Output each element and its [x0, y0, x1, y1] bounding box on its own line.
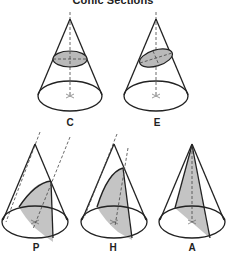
cone-axial: A [159, 144, 225, 253]
cone-label-p: P [33, 242, 40, 253]
parabola-shading [19, 181, 53, 242]
cone-parabola: P [2, 132, 70, 253]
cone-label-e: E [154, 117, 161, 128]
cone-hyperbola: H [81, 134, 147, 253]
triangle-shading [175, 145, 210, 238]
cone-circle: C [38, 12, 102, 128]
cone-label-h: H [109, 242, 116, 253]
cone-label-a: A [188, 242, 195, 253]
cone-ellipse: E [124, 12, 188, 128]
conic-sections-diagram: C E P [0, 0, 226, 258]
hyperbola-shading [97, 168, 132, 240]
cone-label-c: C [66, 117, 73, 128]
